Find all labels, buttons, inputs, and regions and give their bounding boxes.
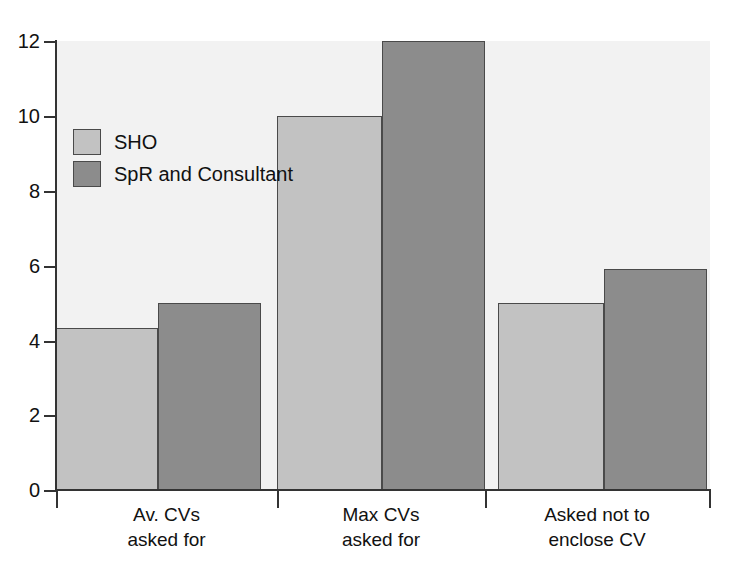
y-tick-label-0: 0 [0, 480, 40, 500]
bar-spr-asked-not-to-enclose [604, 269, 707, 490]
x-category-label-asked-not-to-enclose-line2: enclose CV [485, 527, 709, 552]
x-category-label-max-cvs: Max CVs asked for [277, 502, 485, 552]
y-tick-2 [44, 415, 56, 417]
bar-chart: 12 10 8 6 4 2 0 Av. CVs asked for Max CV… [0, 0, 733, 576]
legend-swatch-spr-icon [73, 161, 101, 187]
bar-spr-av-cvs [158, 303, 261, 490]
bar-sho-av-cvs [56, 328, 158, 490]
x-axis-line [55, 489, 711, 491]
x-category-label-av-cvs-line2: asked for [56, 527, 277, 552]
x-category-label-av-cvs: Av. CVs asked for [56, 502, 277, 552]
x-category-label-asked-not-to-enclose-line1: Asked not to [485, 502, 709, 527]
y-tick-label-6: 6 [0, 256, 40, 276]
chart-legend: SHO SpR and Consultant [73, 126, 293, 190]
x-category-label-av-cvs-line1: Av. CVs [56, 502, 277, 527]
y-tick-4 [44, 341, 56, 343]
y-tick-label-2: 2 [0, 405, 40, 425]
y-tick-label-4: 4 [0, 331, 40, 351]
legend-label-spr-and-consultant: SpR and Consultant [114, 164, 293, 184]
y-tick-8 [44, 191, 56, 193]
legend-item-sho: SHO [73, 126, 293, 158]
legend-item-spr-and-consultant: SpR and Consultant [73, 158, 293, 190]
x-tick-group-4 [709, 490, 711, 508]
y-tick-6 [44, 266, 56, 268]
y-tick-label-12: 12 [0, 31, 40, 51]
bar-sho-asked-not-to-enclose [498, 303, 604, 490]
bar-spr-max-cvs [382, 41, 485, 490]
y-tick-12 [44, 41, 56, 43]
legend-swatch-sho-icon [73, 129, 101, 155]
y-tick-label-10: 10 [0, 106, 40, 126]
y-tick-10 [44, 116, 56, 118]
x-category-label-asked-not-to-enclose: Asked not to enclose CV [485, 502, 709, 552]
x-category-label-max-cvs-line2: asked for [277, 527, 485, 552]
y-tick-label-8: 8 [0, 181, 40, 201]
x-category-label-max-cvs-line1: Max CVs [277, 502, 485, 527]
y-tick-0 [44, 490, 56, 492]
legend-label-sho: SHO [114, 132, 157, 152]
